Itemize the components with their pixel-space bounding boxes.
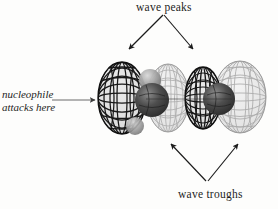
label-nucleophile-line1: nucleophile xyxy=(2,88,66,101)
orbital-atom-0-dark xyxy=(135,83,169,117)
label-nucleophile-attacks-here: nucleophile attacks here xyxy=(2,88,66,115)
figure-canvas: wave peaks wave troughs nucleophile atta… xyxy=(0,0,278,209)
orbital-lobe-3-trough xyxy=(214,61,266,133)
orbital-lobe-1-trough xyxy=(147,64,189,132)
label-nucleophile-line2: attacks here xyxy=(2,101,66,114)
orbital-atom-2-dark xyxy=(203,83,235,115)
arrow-wave-peaks-right xyxy=(164,15,193,49)
orbital-atom-1-light xyxy=(139,69,161,91)
arrow-wave-troughs-right xyxy=(208,144,238,181)
label-wave-troughs: wave troughs xyxy=(178,188,243,202)
arrow-wave-troughs-left xyxy=(171,144,206,181)
label-wave-peaks: wave peaks xyxy=(136,1,192,15)
orbital-lobe-2-peak xyxy=(185,67,221,129)
arrow-wave-peaks-left xyxy=(129,15,163,49)
orbital-atom-3-light xyxy=(126,117,144,135)
orbital-lobe-0-peak xyxy=(98,62,146,134)
